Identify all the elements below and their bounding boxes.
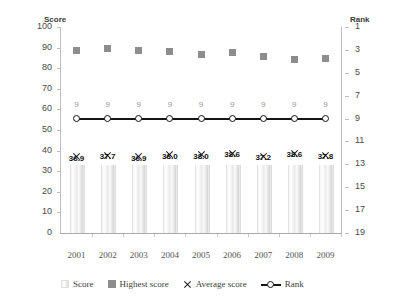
average-score-data-label: 37.2 bbox=[248, 153, 278, 162]
legend-label: Highest score bbox=[120, 279, 169, 289]
legend-label: Average score bbox=[196, 279, 247, 289]
score-bar bbox=[195, 165, 210, 233]
right-tick-mark bbox=[345, 96, 349, 97]
right-tick-mark bbox=[345, 164, 349, 165]
rank-point-marker bbox=[135, 115, 142, 122]
right-tick-label: 9 bbox=[355, 113, 381, 123]
right-tick-mark bbox=[345, 27, 349, 28]
legend-label: Rank bbox=[285, 279, 304, 289]
average-score-data-label: 38.0 bbox=[186, 152, 216, 161]
average-score-data-label: 37.8 bbox=[310, 152, 340, 161]
score-rank-chart: Score Rank 1009080706050403020100 135791… bbox=[0, 0, 397, 299]
x-axis-tick-mark bbox=[185, 234, 186, 237]
rank-data-label: 9 bbox=[67, 100, 87, 109]
left-tick-label: 0 bbox=[26, 227, 52, 237]
legend-item[interactable]: Highest score bbox=[108, 279, 169, 289]
right-tick-mark bbox=[345, 187, 349, 188]
right-axis-line bbox=[341, 27, 342, 234]
right-tick-mark bbox=[345, 50, 349, 51]
rank-point-marker bbox=[229, 115, 236, 122]
right-tick-label: 19 bbox=[355, 227, 381, 237]
average-score-data-label: 38.6 bbox=[217, 150, 247, 159]
left-tick-mark bbox=[57, 151, 61, 152]
right-tick-label: 13 bbox=[355, 158, 381, 168]
x-marker-icon bbox=[183, 280, 192, 289]
score-bar bbox=[226, 165, 241, 233]
right-tick-mark bbox=[345, 73, 349, 74]
rank-data-label: 9 bbox=[129, 100, 149, 109]
average-score-data-label: 37.7 bbox=[93, 152, 123, 161]
right-tick-label: 15 bbox=[355, 181, 381, 191]
line-marker-icon bbox=[261, 280, 281, 289]
highest-score-marker bbox=[135, 47, 142, 54]
right-tick-label: 1 bbox=[355, 21, 381, 31]
left-tick-label: 90 bbox=[26, 42, 52, 52]
left-tick-label: 40 bbox=[26, 145, 52, 155]
rank-data-label: 9 bbox=[253, 100, 273, 109]
rank-data-label: 9 bbox=[98, 100, 118, 109]
average-score-data-label: 36.9 bbox=[62, 154, 92, 163]
left-tick-mark bbox=[57, 109, 61, 110]
square-marker-icon bbox=[108, 280, 116, 288]
rank-data-label: 9 bbox=[284, 100, 304, 109]
right-tick-mark bbox=[345, 141, 349, 142]
x-axis-tick-mark bbox=[341, 234, 342, 237]
x-axis-line bbox=[60, 233, 342, 234]
left-tick-label: 80 bbox=[26, 62, 52, 72]
rank-data-label: 9 bbox=[222, 100, 242, 109]
highest-score-marker bbox=[104, 45, 111, 52]
right-tick-mark bbox=[345, 233, 349, 234]
left-tick-mark bbox=[57, 212, 61, 213]
rank-point-marker bbox=[260, 115, 267, 122]
x-axis-tick-mark bbox=[123, 234, 124, 237]
legend-item[interactable]: Score bbox=[61, 279, 94, 289]
left-tick-mark bbox=[57, 171, 61, 172]
left-tick-mark bbox=[57, 48, 61, 49]
left-tick-mark bbox=[57, 27, 61, 28]
average-score-data-label: 38.0 bbox=[155, 152, 185, 161]
legend-label: Score bbox=[73, 279, 94, 289]
left-tick-label: 50 bbox=[26, 124, 52, 134]
right-tick-label: 5 bbox=[355, 67, 381, 77]
right-tick-mark bbox=[345, 210, 349, 211]
x-axis-tick-mark bbox=[310, 234, 311, 237]
score-bar bbox=[132, 165, 147, 233]
bar-swatch-icon bbox=[61, 280, 69, 288]
left-tick-label: 20 bbox=[26, 186, 52, 196]
highest-score-marker bbox=[260, 53, 267, 60]
score-bar bbox=[163, 165, 178, 233]
highest-score-marker bbox=[229, 49, 236, 56]
rank-point-marker bbox=[166, 115, 173, 122]
rank-point-marker bbox=[73, 115, 80, 122]
highest-score-marker bbox=[291, 56, 298, 63]
average-score-data-label: 36.9 bbox=[124, 154, 154, 163]
score-bar bbox=[319, 165, 334, 233]
chart-legend: ScoreHighest scoreAverage scoreRank bbox=[61, 276, 361, 292]
rank-point-marker bbox=[322, 115, 329, 122]
x-axis-tick-mark bbox=[248, 234, 249, 237]
rank-point-marker bbox=[198, 115, 205, 122]
left-tick-mark bbox=[57, 68, 61, 69]
highest-score-marker bbox=[322, 55, 329, 62]
score-bar bbox=[70, 165, 85, 233]
score-bar bbox=[101, 165, 116, 233]
x-axis-tick-mark bbox=[92, 234, 93, 237]
highest-score-marker bbox=[166, 48, 173, 55]
left-tick-label: 30 bbox=[26, 165, 52, 175]
x-axis-tick-mark bbox=[279, 234, 280, 237]
average-score-data-label: 38.6 bbox=[279, 150, 309, 159]
right-tick-label: 17 bbox=[355, 204, 381, 214]
legend-item[interactable]: Rank bbox=[261, 279, 304, 289]
left-tick-label: 10 bbox=[26, 206, 52, 216]
right-tick-mark bbox=[345, 119, 349, 120]
rank-data-label: 9 bbox=[160, 100, 180, 109]
right-tick-label: 7 bbox=[355, 90, 381, 100]
left-tick-label: 70 bbox=[26, 83, 52, 93]
left-tick-label: 100 bbox=[26, 21, 52, 31]
rank-point-marker bbox=[104, 115, 111, 122]
rank-data-label: 9 bbox=[315, 100, 335, 109]
score-bar bbox=[257, 165, 272, 233]
legend-item[interactable]: Average score bbox=[183, 279, 247, 289]
left-tick-mark bbox=[57, 89, 61, 90]
left-tick-mark bbox=[57, 192, 61, 193]
